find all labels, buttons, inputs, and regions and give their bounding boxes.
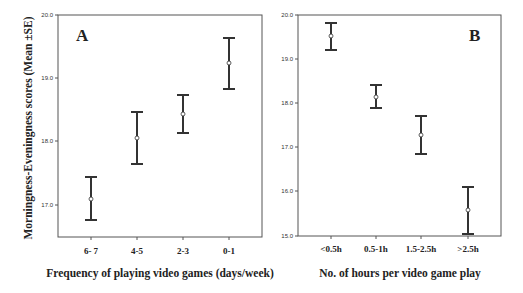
mean-marker bbox=[181, 112, 185, 116]
y-tick-label: 17.0 bbox=[281, 144, 293, 150]
mean-marker bbox=[329, 34, 333, 38]
x-category-label: 0.5-1h bbox=[364, 244, 388, 254]
x-category-label: 1.5-2.5h bbox=[406, 244, 437, 254]
x-category-label: 6- 7 bbox=[84, 246, 99, 256]
mean-marker bbox=[135, 136, 139, 140]
x-category-label: 4-5 bbox=[131, 246, 143, 256]
panel-b-x-axis: <0.5h 0.5-1h 1.5-2.5h >2.5h bbox=[320, 236, 478, 254]
panel-b-error-bar bbox=[462, 187, 474, 234]
panel-b-error-bar bbox=[370, 85, 382, 108]
panel-a-error-bar bbox=[85, 177, 97, 220]
mean-marker bbox=[466, 208, 470, 212]
y-tick-label: 18.0 bbox=[41, 138, 53, 144]
mean-marker bbox=[374, 95, 378, 99]
panel-b: B 20.0 19.0 18.0 17.0 16.0 15.0 <0.5h 0.… bbox=[281, 12, 501, 280]
y-tick-label: 20.0 bbox=[41, 12, 53, 18]
x-category-label: <0.5h bbox=[320, 244, 341, 254]
panel-a-error-bar bbox=[223, 38, 235, 89]
panel-a-error-bar bbox=[177, 95, 189, 133]
panel-a-y-axis-title: Morningness-Eveningness scores (Mean ±SE… bbox=[22, 16, 35, 239]
panel-a-y-axis: 20.0 19.0 18.0 17.0 bbox=[41, 12, 58, 208]
y-tick-label: 15.0 bbox=[281, 233, 293, 239]
x-category-label: 0-1 bbox=[223, 246, 235, 256]
panel-a-error-bar bbox=[131, 112, 143, 164]
panel-a-frame bbox=[58, 15, 262, 237]
mean-marker bbox=[227, 61, 231, 65]
y-tick-label: 17.0 bbox=[41, 202, 53, 208]
panel-b-y-axis: 20.0 19.0 18.0 17.0 16.0 15.0 bbox=[281, 12, 298, 239]
figure: A 20.0 19.0 18.0 17.0 Morningness-Evenin… bbox=[0, 0, 523, 293]
y-tick-label: 18.0 bbox=[281, 100, 293, 106]
panel-b-error-bar bbox=[325, 23, 337, 50]
y-tick-label: 19.0 bbox=[41, 75, 53, 81]
x-category-label: >2.5h bbox=[457, 244, 478, 254]
panel-a-letter: A bbox=[76, 26, 89, 45]
y-tick-label: 16.0 bbox=[281, 188, 293, 194]
panel-a-x-axis: 6- 7 4-5 2-3 0-1 bbox=[84, 237, 236, 256]
mean-marker bbox=[419, 133, 423, 137]
y-tick-label: 19.0 bbox=[281, 56, 293, 62]
mean-marker bbox=[89, 197, 93, 201]
panel-a-x-axis-title: Frequency of playing video games (days/w… bbox=[46, 267, 274, 280]
panel-a: A 20.0 19.0 18.0 17.0 Morningness-Evenin… bbox=[22, 12, 274, 280]
panel-b-error-bar bbox=[415, 116, 427, 154]
panel-b-frame bbox=[298, 15, 501, 236]
y-tick-label: 20.0 bbox=[281, 12, 293, 18]
panel-b-letter: B bbox=[469, 26, 480, 45]
x-category-label: 2-3 bbox=[177, 246, 189, 256]
panel-b-x-axis-title: No. of hours per video game play bbox=[319, 267, 481, 280]
